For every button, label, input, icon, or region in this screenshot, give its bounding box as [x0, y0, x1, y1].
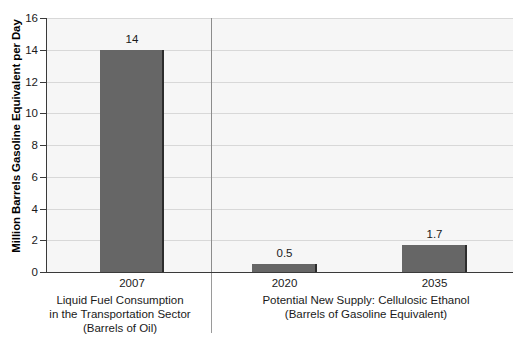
y-axis-tick-labels: 0246810121416	[0, 0, 38, 337]
y-axis-tick	[40, 145, 46, 146]
bar	[100, 50, 164, 272]
bar	[252, 264, 317, 272]
y-axis-tick-label: 0	[2, 266, 38, 278]
y-axis-tick	[40, 113, 46, 114]
x-axis-tick-label: 2035	[377, 277, 492, 289]
caption-line: Potential New Supply: Cellulosic Ethanol	[262, 294, 469, 306]
bar-value-label: 0.5	[232, 247, 337, 259]
caption-line: in the Transportation Sector	[49, 308, 190, 320]
y-axis-line	[46, 18, 47, 273]
bar-chart-figure: Million Barrels Gasoline Equivalent per …	[0, 0, 516, 337]
y-axis-tick-label: 14	[2, 44, 38, 56]
bar-value-label: 1.7	[382, 228, 487, 240]
y-axis-tick-label: 8	[2, 139, 38, 151]
y-axis-tick	[40, 209, 46, 210]
caption-line: (Barrels of Oil)	[83, 322, 157, 334]
bar-value-label: 14	[80, 33, 184, 45]
x-axis-tick-label: 2020	[227, 277, 342, 289]
y-axis-tick-label: 12	[2, 76, 38, 88]
y-axis-tick	[40, 82, 46, 83]
group-caption-left: Liquid Fuel Consumptionin the Transporta…	[32, 293, 208, 335]
y-axis-tick-label: 4	[2, 203, 38, 215]
caption-line: Liquid Fuel Consumption	[56, 294, 183, 306]
y-axis-tick-label: 16	[2, 12, 38, 24]
y-axis-tick	[40, 272, 46, 273]
x-axis-line	[46, 272, 513, 273]
y-axis-tick	[40, 177, 46, 178]
group-divider-plot	[211, 18, 212, 272]
gridline	[47, 18, 513, 19]
y-axis-tick-label: 10	[2, 107, 38, 119]
y-axis-tick-label: 2	[2, 234, 38, 246]
group-caption-right: Potential New Supply: Cellulosic Ethanol…	[218, 293, 514, 321]
caption-line: (Barrels of Gasoline Equivalent)	[285, 308, 447, 320]
y-axis-tick	[40, 240, 46, 241]
x-axis-tick-label: 2007	[75, 277, 189, 289]
group-divider-caption	[211, 273, 212, 333]
bar	[402, 245, 467, 272]
y-axis-tick-label: 6	[2, 171, 38, 183]
y-axis-tick	[40, 18, 46, 19]
y-axis-tick	[40, 50, 46, 51]
